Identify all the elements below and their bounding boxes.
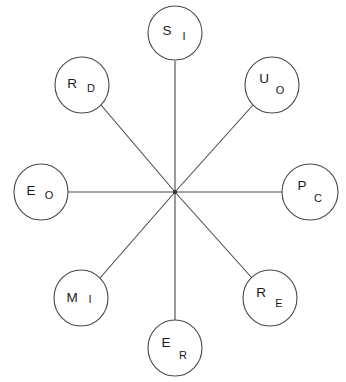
node-left: EO (14, 164, 68, 220)
radial-star-diagram: SIUOPCREERMIEORD (0, 0, 346, 382)
node-bottom-right-circle (243, 270, 297, 326)
node-top-right: UO (245, 57, 299, 113)
node-bottom-main-letter: E (161, 335, 170, 350)
node-bottom-sub-letter: R (179, 349, 187, 361)
node-top-main-letter: S (162, 23, 171, 38)
node-bottom-left-circle (54, 270, 108, 326)
node-right-main-letter: P (297, 178, 306, 193)
node-top-circle (148, 6, 202, 60)
node-right: PC (282, 164, 338, 220)
star-diagram-canvas: SIUOPCREERMIEORD (0, 0, 346, 382)
node-right-sub-letter: C (314, 192, 322, 204)
node-top-left-circle (55, 57, 109, 113)
edge-hub-top-right (175, 105, 253, 192)
node-top-right-main-letter: U (259, 71, 269, 86)
node-left-circle (14, 164, 68, 220)
node-top-left: RD (55, 57, 109, 113)
node-bottom-right-sub-letter: E (275, 297, 282, 309)
node-bottom-circle (148, 320, 202, 376)
edge-hub-bottom-right (175, 192, 252, 278)
node-bottom-right-main-letter: R (256, 285, 266, 300)
node-left-sub-letter: O (45, 189, 54, 201)
node-bottom-right: RE (243, 270, 297, 326)
node-top-right-sub-letter: O (276, 84, 285, 96)
node-top-left-sub-letter: D (87, 82, 95, 94)
node-bottom: ER (148, 320, 202, 376)
node-bottom-left-sub-letter: I (88, 293, 91, 305)
node-left-main-letter: E (26, 183, 35, 198)
edge-hub-bottom-left (100, 192, 175, 278)
center-hub (173, 190, 177, 194)
node-bottom-left: MI (54, 270, 108, 326)
center-hub-dot (173, 190, 177, 194)
node-right-circle (282, 164, 338, 220)
node-top-right-circle (245, 57, 299, 113)
node-top: SI (148, 6, 202, 60)
edge-hub-top-left (101, 105, 175, 192)
node-bottom-left-main-letter: M (66, 290, 77, 305)
node-top-left-main-letter: R (67, 76, 77, 91)
node-top-sub-letter: I (182, 30, 185, 42)
